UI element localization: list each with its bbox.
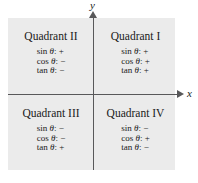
- x-axis-label: x: [187, 88, 192, 99]
- ratio-name: tan: [37, 142, 48, 152]
- ratio-sign: −: [60, 133, 65, 143]
- quadrant-3-ratio-list: sin θ: − cos θ: − tan θ: +: [37, 124, 66, 153]
- ratio-name: cos: [121, 133, 133, 143]
- ratio-sign: +: [144, 65, 149, 75]
- quadrant-1-ratio-list: sin θ: + cos θ: + tan θ: +: [121, 47, 150, 76]
- ratio-sign: +: [145, 56, 150, 66]
- ratio-colon: :: [55, 56, 58, 66]
- ratio-name: cos: [37, 133, 49, 143]
- ratio-row: tan θ: +: [37, 143, 66, 153]
- ratio-colon: :: [138, 123, 141, 133]
- ratio-sign: +: [145, 133, 150, 143]
- ratio-row: tan θ: −: [37, 66, 66, 76]
- ratio-sign: +: [59, 46, 64, 56]
- quadrant-4-title: Quadrant IV: [96, 107, 175, 120]
- quadrant-1-title: Quadrant I: [96, 30, 175, 43]
- ratio-sign: +: [143, 46, 148, 56]
- quadrant-4-block: Quadrant IV sin θ: − cos θ: + tan θ: −: [96, 107, 175, 154]
- ratio-colon: :: [138, 46, 141, 56]
- arrow-right-icon: [177, 90, 184, 98]
- ratio-name: sin: [121, 46, 132, 56]
- ratio-colon: :: [54, 142, 57, 152]
- ratio-name: cos: [121, 56, 133, 66]
- ratio-name: cos: [37, 56, 49, 66]
- y-axis-line: [93, 17, 94, 170]
- quadrant-2-ratio-list: sin θ: + cos θ: − tan θ: −: [37, 47, 66, 76]
- ratio-colon: :: [139, 142, 142, 152]
- quadrant-2-block: Quadrant II sin θ: + cos θ: − tan θ: −: [10, 30, 92, 77]
- ratio-sign: −: [144, 142, 149, 152]
- quadrant-2-title: Quadrant II: [10, 30, 92, 43]
- ratio-row: tan θ: +: [121, 66, 150, 76]
- ratio-colon: :: [54, 65, 57, 75]
- ratio-name: tan: [121, 65, 132, 75]
- ratio-sign: +: [59, 142, 64, 152]
- ratio-colon: :: [139, 65, 142, 75]
- y-axis-label: y: [90, 0, 95, 11]
- quadrant-3-block: Quadrant III sin θ: − cos θ: − tan θ: +: [10, 107, 92, 154]
- ratio-sign: −: [143, 123, 148, 133]
- ratio-sign: −: [59, 123, 64, 133]
- ratio-colon: :: [55, 133, 58, 143]
- ratio-colon: :: [140, 56, 143, 66]
- ratio-sign: −: [60, 56, 65, 66]
- ratio-colon: :: [54, 123, 57, 133]
- ratio-colon: :: [54, 46, 57, 56]
- quadrant-sign-diagram: y x Quadrant II sin θ: + cos θ: − tan θ:…: [0, 0, 198, 183]
- ratio-name: tan: [121, 142, 132, 152]
- ratio-name: tan: [37, 65, 48, 75]
- ratio-name: sin: [37, 123, 48, 133]
- ratio-sign: −: [59, 65, 64, 75]
- ratio-name: sin: [37, 46, 48, 56]
- ratio-name: sin: [121, 123, 132, 133]
- quadrant-4-ratio-list: sin θ: − cos θ: + tan θ: −: [121, 124, 150, 153]
- ratio-row: tan θ: −: [121, 143, 150, 153]
- quadrant-1-block: Quadrant I sin θ: + cos θ: + tan θ: +: [96, 30, 175, 77]
- quadrant-3-title: Quadrant III: [10, 107, 92, 120]
- ratio-colon: :: [140, 133, 143, 143]
- arrow-up-icon: [89, 11, 97, 18]
